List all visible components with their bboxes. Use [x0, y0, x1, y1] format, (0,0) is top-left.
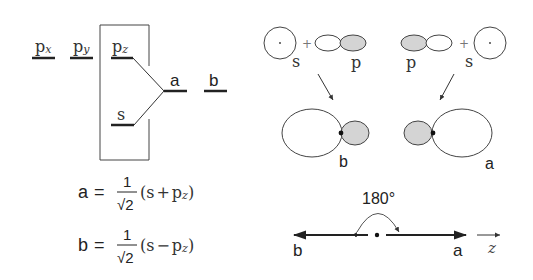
- level-s: s: [111, 105, 134, 125]
- svg-text:√2: √2: [117, 249, 134, 266]
- level-b: b: [204, 71, 227, 91]
- hybrid-b-large-lobe: [282, 109, 342, 157]
- energy-level-diagram: px py pz s a b: [32, 25, 227, 160]
- p-orbital-lobe-shaded: [340, 35, 366, 51]
- svg-text:b: b: [78, 235, 88, 255]
- orbital-group-right: p + s a: [401, 27, 506, 172]
- p-orbital-lobe-shaded: [401, 35, 427, 51]
- hybrid-a-small-lobe: [404, 121, 432, 145]
- arrow-to-b: [318, 74, 333, 100]
- svg-text:(s−pz): (s−pz): [140, 236, 194, 255]
- svg-text:1: 1: [123, 226, 131, 243]
- level-py: py: [70, 37, 93, 58]
- z-axis-label: z: [487, 239, 496, 257]
- level-a: a: [164, 71, 187, 91]
- svg-text:py: py: [73, 37, 90, 56]
- hybrid-b-small-lobe: [341, 121, 369, 145]
- hybrid-b-label: b: [339, 153, 348, 170]
- p-orbital-lobe-clear: [315, 35, 341, 51]
- svg-text:s: s: [292, 52, 300, 71]
- svg-text:1: 1: [123, 173, 131, 190]
- svg-text:a: a: [453, 241, 463, 260]
- svg-text:p: p: [351, 53, 361, 72]
- a-label: a: [170, 71, 180, 90]
- px-label: p: [35, 37, 45, 56]
- svg-text:a: a: [78, 182, 89, 202]
- svg-text:+: +: [302, 37, 312, 51]
- hybrid-a-label: a: [485, 155, 494, 172]
- equation-b: b = 1 √2 (s−pz): [78, 226, 194, 266]
- angle-arc: [357, 214, 399, 233]
- level-px: px: [32, 37, 55, 58]
- sp-hybridization-diagram: px py pz s a b: [0, 0, 533, 280]
- svg-text:√2: √2: [117, 196, 134, 213]
- linear-geometry: 180° b a z: [293, 190, 500, 260]
- svg-text:s: s: [465, 52, 473, 71]
- svg-text:+: +: [459, 37, 469, 51]
- p-orbital-lobe-clear: [426, 35, 452, 51]
- svg-text:=: =: [94, 235, 105, 255]
- svg-text:=: =: [94, 182, 105, 202]
- svg-text:p: p: [406, 53, 416, 72]
- angle-label: 180°: [362, 190, 395, 207]
- svg-text:(s+pz): (s+pz): [140, 183, 194, 202]
- pz-label: p: [112, 37, 122, 56]
- b-label: b: [209, 71, 218, 90]
- s-label: s: [117, 105, 125, 124]
- arrow-to-a: [440, 74, 454, 100]
- py-label: p: [73, 37, 83, 56]
- orbital-group-left: s + p b: [264, 27, 369, 170]
- center-atom: [375, 233, 379, 237]
- svg-text:b: b: [293, 241, 302, 260]
- equation-a: a = 1 √2 (s+pz): [78, 173, 194, 213]
- svg-text:px: px: [35, 37, 52, 56]
- level-pz: pz: [111, 37, 133, 58]
- hybrid-a-large-lobe: [432, 109, 492, 157]
- svg-text:pz: pz: [112, 37, 128, 56]
